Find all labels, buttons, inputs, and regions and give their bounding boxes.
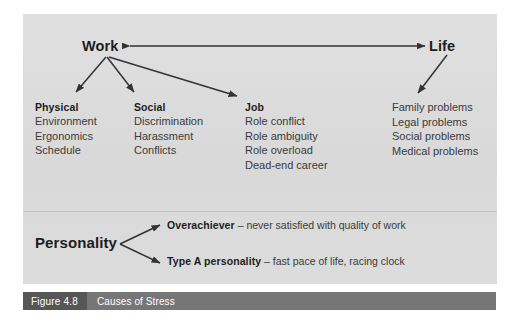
column-item: Discrimination [134,114,203,129]
column-item: Dead-end career [245,158,328,173]
column-item: Conflicts [134,143,203,158]
figure-caption-bar: Figure 4.8 Causes of Stress [23,292,496,310]
column-item: Social problems [392,129,478,144]
trait-overachiever: Overachiever – never satisfied with qual… [167,219,406,231]
column-social: Social Discrimination Harassment Conflic… [134,100,203,158]
node-label-personality: Personality [35,234,117,251]
column-item: Harassment [134,129,203,144]
trait-name: Overachiever [167,219,235,231]
figure-causes-of-stress: Work Life Personality Physical Environme… [0,0,520,328]
column-item: Role conflict [245,114,328,129]
column-item: Role ambiguity [245,129,328,144]
trait-description: – fast pace of life, racing clock [261,255,405,267]
node-label-work: Work [82,38,118,54]
trait-name: Type A personality [167,255,261,267]
node-label-life: Life [429,38,455,54]
trait-description: – never satisfied with quality of work [235,219,406,231]
column-heading: Social [134,100,203,114]
column-heading: Physical [35,100,97,114]
column-life-problems: Family problems Legal problems Social pr… [392,100,478,158]
trait-type-a-personality: Type A personality – fast pace of life, … [167,255,405,267]
figure-title: Causes of Stress [87,292,175,310]
column-item: Family problems [392,100,478,115]
column-item: Legal problems [392,115,478,130]
column-job: Job Role conflict Role ambiguity Role ov… [245,100,328,172]
column-heading: Job [245,100,328,114]
column-item: Ergonomics [35,129,97,144]
section-divider [23,211,497,212]
column-item: Schedule [35,143,97,158]
column-item: Environment [35,114,97,129]
column-physical: Physical Environment Ergonomics Schedule [35,100,97,158]
figure-number: Figure 4.8 [23,292,87,310]
column-item: Medical problems [392,144,478,159]
column-item: Role overload [245,143,328,158]
